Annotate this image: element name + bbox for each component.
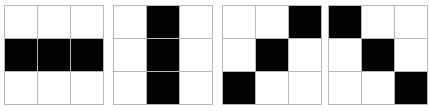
grid-cell xyxy=(114,6,146,38)
binary-grid-figure xyxy=(0,0,430,111)
grid-horizontal-bar xyxy=(4,5,104,105)
grid-cell xyxy=(256,6,288,38)
grid-cell xyxy=(71,39,103,71)
grid-cell xyxy=(362,6,394,38)
grid-cell xyxy=(114,39,146,71)
grid-cell xyxy=(256,39,288,71)
grid-cell xyxy=(147,72,179,104)
grid-vertical-bar xyxy=(113,5,213,105)
grid-cell xyxy=(147,39,179,71)
grid-cell xyxy=(395,6,427,38)
grid-cell xyxy=(180,6,212,38)
grid-cell xyxy=(329,6,361,38)
grid-cell xyxy=(71,6,103,38)
grid-cell xyxy=(395,72,427,104)
grid-cell xyxy=(38,72,70,104)
grid-cell xyxy=(114,72,146,104)
grid-cell xyxy=(289,6,321,38)
grid-cell xyxy=(147,6,179,38)
grid-cell xyxy=(5,39,37,71)
grid-cell xyxy=(289,72,321,104)
grid-cell xyxy=(38,39,70,71)
grid-cell xyxy=(223,72,255,104)
grid-cell xyxy=(256,72,288,104)
grid-cell xyxy=(5,72,37,104)
grid-cell xyxy=(71,72,103,104)
grid-cell xyxy=(180,72,212,104)
grid-cell xyxy=(329,39,361,71)
grid-cell xyxy=(362,39,394,71)
grid-cell xyxy=(38,6,70,38)
grid-anti-diagonal xyxy=(222,5,322,105)
grid-cell xyxy=(180,39,212,71)
grid-cell xyxy=(5,6,37,38)
grid-main-diagonal xyxy=(328,5,428,105)
grid-cell xyxy=(223,6,255,38)
grid-cell xyxy=(223,39,255,71)
grid-cell xyxy=(329,72,361,104)
grid-cell xyxy=(362,72,394,104)
grid-cell xyxy=(289,39,321,71)
grid-cell xyxy=(395,39,427,71)
